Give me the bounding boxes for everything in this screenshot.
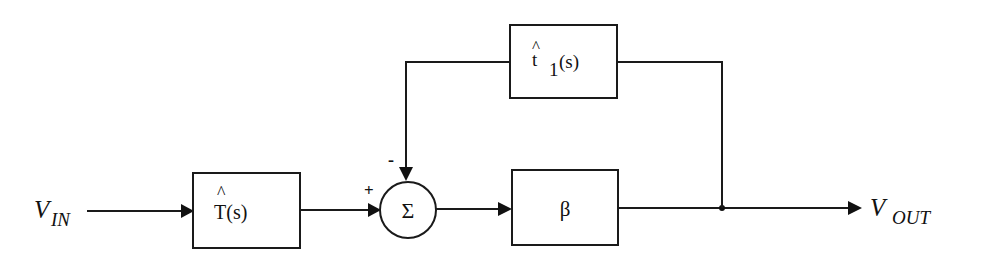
filter-to-sum-wire	[300, 203, 381, 217]
output-label-main: V	[870, 194, 888, 221]
input-label-sub: IN	[50, 209, 71, 230]
feedback-label-arg: (s)	[559, 51, 579, 73]
output-label: V OUT	[870, 194, 931, 228]
feedback-label-sub: 1	[549, 59, 559, 80]
arrow-head-icon	[399, 167, 413, 181]
block-diagram: V IN ^ T(s) + Σ - β V	[0, 0, 981, 261]
feedback-label-main: t	[532, 49, 538, 70]
forward-filter-hat: ^	[217, 183, 226, 203]
input-signal-wire	[87, 204, 194, 218]
gain-label: β	[560, 197, 571, 221]
output-signal-wire	[618, 201, 862, 215]
feedback-block: ^ t 1 (s)	[510, 25, 617, 98]
forward-filter-block: ^ T(s)	[193, 173, 300, 248]
minus-sign: -	[388, 150, 394, 170]
input-label: V IN	[34, 196, 71, 230]
sigma-symbol: Σ	[402, 198, 415, 223]
forward-filter-label: T(s)	[214, 201, 247, 224]
sum-to-gain-wire	[436, 202, 512, 216]
arrow-head-icon	[498, 202, 512, 216]
arrow-head-icon	[848, 201, 862, 215]
summing-junction: Σ	[380, 182, 436, 238]
output-label-sub: OUT	[892, 207, 931, 228]
gain-block: β	[512, 170, 618, 245]
plus-sign: +	[364, 181, 374, 200]
input-label-main: V	[34, 196, 52, 223]
